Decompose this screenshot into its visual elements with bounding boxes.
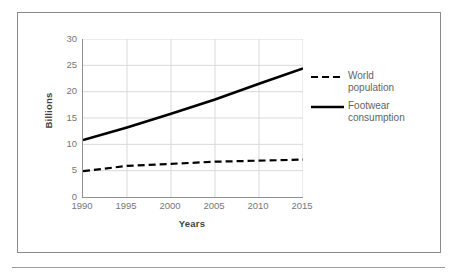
x-axis-title: Years [82,218,302,229]
x-tick-label: 2010 [238,200,278,211]
y-tick-label: 15 [53,113,77,123]
line-chart: Billions 30 25 20 15 10 5 0 1990 1995 [18,13,442,254]
series-line-world-population [83,160,303,172]
legend-label: Footwear consumption [348,100,405,124]
x-tick-label: 2005 [194,200,234,211]
y-tick-label: 20 [53,86,77,96]
series-line-footwear-consumption [83,68,303,140]
x-tick-label: 2000 [150,200,190,211]
chart-legend: World population Footwear consumption [310,70,438,130]
x-tick-label: 2015 [282,200,322,211]
x-axis-ticks: 1990 1995 2000 2005 2010 2015 [82,200,302,214]
series-layer [83,68,303,171]
y-tick-label: 5 [53,165,77,175]
legend-item-footwear-consumption: Footwear consumption [310,100,438,124]
dashed-line-icon [310,70,346,84]
y-tick-label: 10 [53,139,77,149]
plot-canvas [83,39,303,197]
x-tick-label: 1990 [62,200,102,211]
y-axis-ticks: 30 25 20 15 10 5 0 [49,13,77,254]
legend-item-world-population: World population [310,70,438,94]
y-tick-label: 30 [53,34,77,44]
x-tick-label: 1995 [106,200,146,211]
plot-area [82,39,303,198]
solid-line-icon [310,100,346,114]
gridlines [83,39,303,197]
figure-frame: Billions 30 25 20 15 10 5 0 1990 1995 [17,12,441,253]
y-tick-label: 25 [53,60,77,70]
legend-label: World population [348,70,394,94]
bottom-separator-rule [12,267,445,268]
